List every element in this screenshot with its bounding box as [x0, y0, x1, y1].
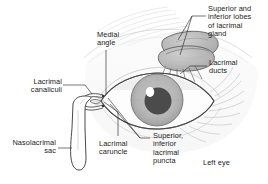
- label-nasolacrimal-sac: Nasolacrimal sac: [0, 139, 56, 156]
- label-lacrimal-gland-lobes: Superior and inferior lobes of lacrimal …: [208, 5, 251, 39]
- label-lacrimal-ducts: Lacrimal ducts: [209, 59, 238, 76]
- label-left-eye: Left eye: [203, 159, 230, 167]
- corneal-highlight: [146, 87, 154, 97]
- anatomical-figure-lacrimal-apparatus: Superior and inferior lobes of lacrimal …: [0, 0, 268, 184]
- label-lacrimal-puncta: Superior, inferior lacrimal puncta: [153, 132, 183, 166]
- label-lacrimal-caruncle: Lacrimal caruncle: [99, 140, 128, 157]
- label-lacrimal-canaliculi: Lacrimal canaliculi: [0, 78, 62, 95]
- label-medial-angle: Medial angle: [97, 31, 119, 48]
